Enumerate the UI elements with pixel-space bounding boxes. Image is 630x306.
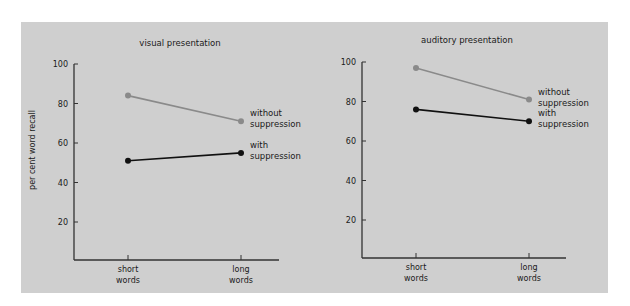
data-point: [526, 97, 532, 103]
data-point: [413, 106, 419, 112]
y-tick-label: 80: [346, 98, 356, 107]
y-tick-label: 60: [346, 137, 356, 146]
series-label-with: suppression: [538, 119, 589, 129]
series-line: [128, 153, 241, 161]
series-label-with: with: [538, 108, 556, 118]
figure: visual presentation20406080100shortwords…: [0, 0, 630, 306]
series-line: [416, 68, 529, 100]
y-tick-label: 100: [53, 60, 68, 69]
series-label-without: without: [538, 87, 571, 97]
y-tick-label: 20: [58, 218, 68, 227]
series-label-without: without: [250, 108, 283, 118]
x-category-label: long: [520, 263, 537, 272]
data-point: [526, 118, 532, 124]
x-category-label: long: [232, 265, 249, 274]
x-category-label: words: [517, 274, 541, 283]
series-label-without: suppression: [538, 98, 589, 108]
y-tick-label: 60: [58, 139, 68, 148]
series-label-with: suppression: [250, 151, 301, 161]
series-line: [416, 109, 529, 121]
series-label-without: suppression: [250, 119, 301, 129]
data-point: [238, 150, 244, 156]
x-category-label: short: [118, 265, 139, 274]
x-category-label: short: [406, 263, 427, 272]
y-tick-label: 20: [346, 216, 356, 225]
data-point: [125, 93, 131, 99]
data-point: [238, 118, 244, 124]
y-tick-label: 100: [341, 58, 356, 67]
data-point: [413, 65, 419, 71]
series-label-with: with: [250, 140, 268, 150]
y-tick-label: 40: [346, 177, 356, 186]
x-category-label: words: [229, 276, 253, 285]
y-tick-label: 80: [58, 100, 68, 109]
chart-title: auditory presentation: [421, 35, 513, 45]
y-axis-label: per cent word recall: [28, 110, 37, 190]
y-tick-label: 40: [58, 179, 68, 188]
chart-title: visual presentation: [139, 38, 220, 48]
x-category-label: words: [116, 276, 140, 285]
data-point: [125, 158, 131, 164]
series-line: [128, 96, 241, 122]
x-category-label: words: [404, 274, 428, 283]
